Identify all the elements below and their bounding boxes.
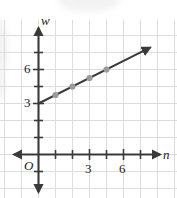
coordinate-graph-figure: w n O 3 6 3 6 — [0, 0, 177, 198]
x-tick-label-6: 6 — [119, 162, 126, 175]
data-point — [103, 66, 109, 72]
y-axis — [33, 28, 44, 192]
x-axis — [14, 149, 160, 160]
x-tick-label-3: 3 — [85, 162, 92, 175]
y-axis-label: w — [41, 14, 50, 27]
y-tick-label-6: 6 — [24, 62, 31, 75]
x-axis-label: n — [163, 148, 170, 161]
data-point — [69, 83, 75, 89]
origin-label: O — [24, 159, 33, 172]
data-point — [52, 92, 58, 98]
y-tick-label-3: 3 — [24, 96, 31, 109]
data-point — [86, 75, 92, 81]
